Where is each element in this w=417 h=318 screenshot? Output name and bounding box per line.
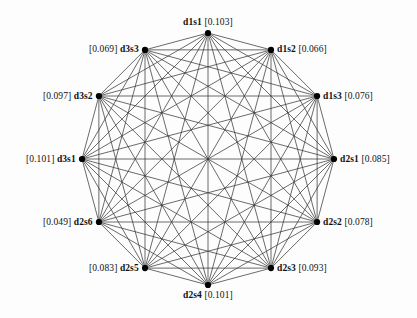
node-label-d2s2: d2s2 [0.078] <box>323 217 373 228</box>
node-id-d1s1: d1s1 <box>183 17 202 27</box>
node-label-d2s3: d2s3 [0.093] <box>277 263 327 274</box>
network-graph-figure: d1s1 [0.103]d1s2 [0.066]d1s3 [0.076]d2s1… <box>0 0 417 318</box>
graph-edge <box>99 96 271 268</box>
node-label-d1s2: d1s2 [0.066] <box>277 44 327 55</box>
graph-node-d2s6[interactable] <box>96 219 102 225</box>
node-id-d1s2: d1s2 <box>277 44 296 54</box>
graph-edge <box>99 50 145 222</box>
node-value-d3s1: [0.101] <box>26 154 54 164</box>
node-label-d3s2: [0.097] d3s2 <box>43 91 93 102</box>
node-value-d3s2: [0.097] <box>43 91 71 101</box>
graph-edge <box>317 159 334 222</box>
graph-edge <box>317 96 334 159</box>
graph-node-d1s3[interactable] <box>314 93 320 99</box>
node-value-d3s3: [0.069] <box>89 44 117 54</box>
node-id-d2s5: d2s5 <box>120 263 139 273</box>
node-label-d1s3: d1s3 [0.076] <box>323 91 373 102</box>
graph-edge <box>82 159 99 222</box>
node-id-d3s1: d3s1 <box>57 154 76 164</box>
node-label-d2s4: d2s4 [0.101] <box>183 290 233 301</box>
graph-edge <box>145 50 334 159</box>
graph-edge <box>82 159 145 268</box>
graph-edge <box>145 96 317 268</box>
node-value-d2s6: [0.049] <box>43 217 71 227</box>
edge-group <box>82 33 334 285</box>
graph-edge <box>145 268 208 285</box>
node-value-d2s4: [0.101] <box>204 290 232 300</box>
node-id-d3s2: d3s2 <box>74 91 93 101</box>
graph-node-d1s1[interactable] <box>205 30 211 36</box>
node-id-d2s6: d2s6 <box>74 217 93 227</box>
node-value-d1s2: [0.066] <box>298 44 326 54</box>
node-label-d2s6: [0.049] d2s6 <box>43 217 93 228</box>
node-id-d2s1: d2s1 <box>340 154 359 164</box>
node-value-d2s3: [0.093] <box>298 263 326 273</box>
graph-edge <box>99 96 208 285</box>
node-id-d2s3: d2s3 <box>277 263 296 273</box>
graph-node-d2s4[interactable] <box>205 282 211 288</box>
graph-node-d3s3[interactable] <box>142 47 148 53</box>
node-value-d2s2: [0.078] <box>344 217 372 227</box>
graph-edge <box>99 96 145 268</box>
graph-edge <box>82 50 145 159</box>
graph-edge <box>82 96 99 159</box>
node-label-d3s1: [0.101] d3s1 <box>26 154 76 165</box>
node-id-d2s2: d2s2 <box>323 217 342 227</box>
node-id-d3s3: d3s3 <box>120 44 139 54</box>
graph-edge <box>145 33 208 50</box>
graph-edge <box>99 50 271 222</box>
node-id-d2s4: d2s4 <box>183 290 202 300</box>
graph-node-d2s5[interactable] <box>142 265 148 271</box>
graph-node-d1s2[interactable] <box>268 47 274 53</box>
graph-edge <box>99 222 208 285</box>
graph-node-d2s2[interactable] <box>314 219 320 225</box>
graph-node-d3s2[interactable] <box>96 93 102 99</box>
node-id-d1s3: d1s3 <box>323 91 342 101</box>
graph-edge <box>208 268 271 285</box>
graph-edge <box>82 159 271 268</box>
graph-edge <box>145 50 317 96</box>
graph-node-d2s3[interactable] <box>268 265 274 271</box>
graph-node-d2s1[interactable] <box>331 156 337 162</box>
graph-edge <box>145 50 317 222</box>
graph-edge <box>208 33 271 50</box>
graph-node-d3s1[interactable] <box>79 156 85 162</box>
node-value-d1s3: [0.076] <box>344 91 372 101</box>
node-label-d1s1: d1s1 [0.103] <box>183 17 233 28</box>
node-value-d2s1: [0.085] <box>361 154 389 164</box>
node-label-d2s5: [0.083] d2s5 <box>89 263 139 274</box>
node-value-d2s5: [0.083] <box>89 263 117 273</box>
node-value-d1s1: [0.103] <box>204 17 232 27</box>
node-label-d2s1: d2s1 [0.085] <box>340 154 390 165</box>
node-label-d3s3: [0.069] d3s3 <box>89 44 139 55</box>
